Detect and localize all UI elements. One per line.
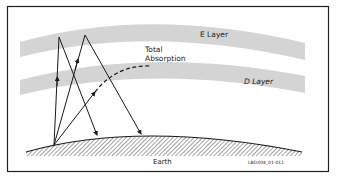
ionosphere-propagation-diagram: E Layer D Layer Total Absorption Earth L… [0,0,337,184]
total-absorption-label-line1: Total [144,45,163,54]
earth-label: Earth [153,158,172,166]
total-absorption-label-line2: Absorption [145,54,186,63]
d-layer-label: D Layer [244,77,274,86]
e-layer-label: E Layer [200,30,229,39]
